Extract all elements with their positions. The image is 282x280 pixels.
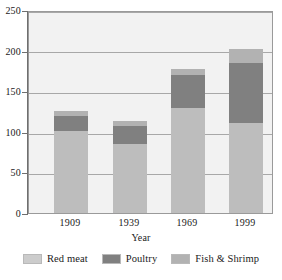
bar-segment-poultry (113, 126, 147, 144)
y-tick-mark-0 (22, 214, 27, 215)
y-tick-mark-100 (22, 133, 27, 134)
y-tick-label-150: 150 (0, 87, 21, 97)
legend-label-fish-shrimp: Fish & Shrimp (195, 253, 259, 264)
legend-swatch-fish-shrimp-icon (171, 254, 190, 264)
stacked-bar-chart: 250 200 150 100 50 0 1909 1939 1969 1999… (0, 0, 282, 280)
chart-legend: Red meat Poultry Fish & Shrimp (0, 253, 282, 264)
y-tick-mark-150 (22, 92, 27, 93)
bar-1999 (229, 49, 263, 213)
bar-segment-red-meat (113, 144, 147, 213)
bar-segment-red-meat (54, 131, 88, 213)
x-tick-label-1939: 1939 (99, 217, 159, 229)
bar-segment-fish-shrimp (229, 49, 263, 63)
y-tick-mark-200 (22, 52, 27, 53)
legend-item-red-meat: Red meat (23, 253, 88, 264)
bar-segment-red-meat (229, 123, 263, 213)
bar-segment-poultry (171, 75, 205, 108)
legend-label-poultry: Poultry (126, 253, 158, 264)
y-axis-line (27, 11, 28, 215)
legend-item-fish-shrimp: Fish & Shrimp (171, 253, 259, 264)
bar-1939 (113, 121, 147, 213)
y-tick-label-100: 100 (0, 128, 21, 138)
bar-segment-red-meat (171, 108, 205, 213)
legend-swatch-red-meat-icon (23, 254, 42, 264)
bar-segment-poultry (54, 116, 88, 131)
y-tick-label-50: 50 (0, 168, 21, 178)
x-tick-label-1999: 1999 (215, 217, 275, 229)
y-tick-label-0: 0 (0, 209, 21, 219)
y-tick-label-250: 250 (0, 6, 21, 16)
legend-swatch-poultry-icon (102, 254, 121, 264)
bar-1909 (54, 111, 88, 213)
y-tick-label-200: 200 (0, 47, 21, 57)
legend-item-poultry: Poultry (102, 253, 158, 264)
y-tick-mark-250 (22, 11, 27, 12)
bar-segment-poultry (229, 63, 263, 123)
y-tick-mark-50 (22, 173, 27, 174)
gridline-250 (29, 12, 272, 13)
x-axis-title: Year (0, 232, 282, 244)
bar-1969 (171, 69, 205, 213)
x-tick-label-1969: 1969 (157, 217, 217, 229)
plot-area (28, 11, 273, 214)
x-tick-label-1909: 1909 (40, 217, 100, 229)
legend-label-red-meat: Red meat (47, 253, 88, 264)
